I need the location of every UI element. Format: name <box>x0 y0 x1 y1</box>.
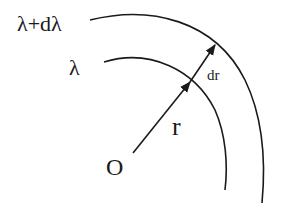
radius-arrow <box>133 82 190 153</box>
dr-label: dr <box>207 68 220 83</box>
diagram-canvas: λ+dλ λ r dr O <box>0 0 282 213</box>
origin-label: O <box>106 155 123 179</box>
radius-label: r <box>172 114 181 140</box>
outer-label: λ+dλ <box>17 13 62 35</box>
inner-label: λ <box>69 57 80 79</box>
